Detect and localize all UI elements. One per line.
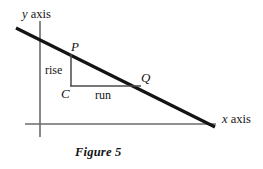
x-axis-label: x axis: [222, 113, 251, 126]
point-label-q: Q: [141, 71, 150, 84]
run-label: run: [95, 89, 111, 101]
point-label-p: P: [71, 40, 79, 53]
x-axis-word: axis: [231, 112, 251, 126]
figure-slope-illustration: y axis x axis P Q C rise run Figure 5: [0, 0, 263, 169]
figure-caption: Figure 5: [75, 146, 121, 159]
slope-line: [16, 28, 215, 127]
figure-canvas: [0, 0, 263, 169]
point-label-c: C: [61, 87, 70, 100]
rise-label: rise: [45, 64, 62, 76]
y-axis-word: axis: [31, 7, 51, 21]
y-axis-label: y axis: [22, 8, 51, 21]
